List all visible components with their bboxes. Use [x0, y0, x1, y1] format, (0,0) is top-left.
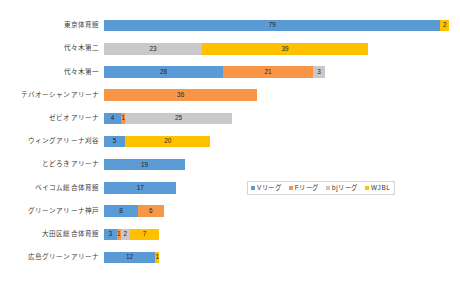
bar-value-label: 2 — [123, 231, 127, 237]
bar-value-label: 3 — [317, 69, 321, 75]
bar-track: 4125 — [104, 107, 460, 130]
category-label: ベイコム総合体育館 — [0, 185, 104, 192]
chart-row: 大田区総合体育館3127 — [0, 223, 460, 246]
legend-label: Vリーグ — [257, 185, 282, 191]
chart-row: ゼビオアリーナ4125 — [0, 107, 460, 130]
bar-value-label: 20 — [164, 138, 171, 144]
bar-track: 19 — [104, 153, 460, 176]
stacked-bar[interactable]: 36 — [104, 89, 257, 101]
legend-label: bjリーグ — [332, 185, 358, 191]
bar-track: 3127 — [104, 223, 460, 246]
bar-value-label: 21 — [264, 69, 271, 75]
bar-segment[interactable]: 19 — [104, 159, 185, 171]
bar-segment[interactable]: 8 — [104, 205, 138, 217]
chart-legend[interactable]: VリーグFリーグbjリーグWJBL — [247, 181, 395, 195]
category-label: 東京体育館 — [0, 22, 104, 29]
chart-row: 代々木第一28213 — [0, 60, 460, 83]
bar-segment[interactable]: 3 — [104, 229, 117, 241]
legend-swatch-icon — [365, 186, 369, 190]
bar-segment[interactable]: 2 — [440, 20, 449, 32]
bar-value-label: 39 — [281, 46, 288, 52]
chart-row: 東京体育館792 — [0, 14, 460, 37]
stacked-bar[interactable]: 792 — [104, 20, 449, 32]
bar-track: 2339 — [104, 37, 460, 60]
bar-track: 121 — [104, 246, 460, 269]
bar-segment[interactable]: 3 — [313, 66, 326, 78]
stacked-bar[interactable]: 4125 — [104, 113, 232, 125]
legend-item[interactable]: bjリーグ — [326, 185, 358, 191]
bar-segment[interactable]: 7 — [130, 229, 160, 241]
bar-value-label: 1 — [155, 254, 159, 260]
category-label: とどろきアリーナ — [0, 161, 104, 168]
bar-segment[interactable]: 79 — [104, 20, 440, 32]
category-label: グリーンアリーナ神戸 — [0, 208, 104, 215]
bar-segment[interactable]: 17 — [104, 182, 176, 194]
bar-track: 28213 — [104, 60, 460, 83]
bar-value-label: 4 — [111, 115, 115, 121]
bar-track: 792 — [104, 14, 460, 37]
category-label: 代々木第二 — [0, 45, 104, 52]
stacked-bar[interactable]: 17 — [104, 182, 176, 194]
category-label: 大田区総合体育館 — [0, 231, 104, 238]
category-label: 代々木第一 — [0, 69, 104, 76]
category-label: 広島グリーンアリーナ — [0, 254, 104, 261]
bar-segment[interactable]: 6 — [138, 205, 164, 217]
bar-value-label: 36 — [177, 92, 184, 98]
bar-value-label: 28 — [160, 69, 167, 75]
chart-row: ウィングアリーナ刈谷520 — [0, 130, 460, 153]
legend-label: WJBL — [371, 185, 390, 191]
stacked-bar[interactable]: 2339 — [104, 43, 368, 55]
bar-value-label: 23 — [149, 46, 156, 52]
bar-segment[interactable]: 5 — [104, 136, 125, 148]
stacked-bar[interactable]: 520 — [104, 136, 210, 148]
bar-value-label: 79 — [269, 22, 276, 28]
bar-track: 36 — [104, 84, 460, 107]
legend-label: Fリーグ — [295, 185, 319, 191]
stacked-bar[interactable]: 19 — [104, 159, 185, 171]
bar-track: 520 — [104, 130, 460, 153]
bar-segment[interactable]: 36 — [104, 89, 257, 101]
legend-swatch-icon — [289, 186, 293, 190]
bar-segment[interactable]: 20 — [125, 136, 210, 148]
bar-value-label: 3 — [109, 231, 113, 237]
chart-row: 代々木第二2339 — [0, 37, 460, 60]
stacked-bar[interactable]: 86 — [104, 205, 164, 217]
stacked-bar[interactable]: 3127 — [104, 229, 159, 241]
stacked-bar-chart: 東京体育館792代々木第二2339代々木第一28213テバオーシャンアリーナ36… — [0, 0, 460, 299]
bar-segment[interactable]: 21 — [223, 66, 312, 78]
bar-value-label: 7 — [143, 231, 147, 237]
bar-value-label: 5 — [113, 138, 117, 144]
legend-item[interactable]: Fリーグ — [289, 185, 319, 191]
category-label: ウィングアリーナ刈谷 — [0, 138, 104, 145]
legend-item[interactable]: Vリーグ — [251, 185, 282, 191]
bar-segment[interactable]: 28 — [104, 66, 223, 78]
legend-item[interactable]: WJBL — [365, 185, 390, 191]
legend-swatch-icon — [326, 186, 330, 190]
bar-segment[interactable]: 23 — [104, 43, 202, 55]
bar-segment[interactable]: 4 — [104, 113, 121, 125]
bar-value-label: 2 — [443, 22, 447, 28]
category-label: ゼビオアリーナ — [0, 115, 104, 122]
bar-track: 86 — [104, 200, 460, 223]
bar-segment[interactable]: 12 — [104, 252, 155, 264]
chart-row: グリーンアリーナ神戸86 — [0, 200, 460, 223]
stacked-bar[interactable]: 121 — [104, 252, 159, 264]
chart-row: とどろきアリーナ19 — [0, 153, 460, 176]
legend-swatch-icon — [251, 186, 255, 190]
chart-plot-area: 東京体育館792代々木第二2339代々木第一28213テバオーシャンアリーナ36… — [0, 14, 460, 269]
bar-value-label: 25 — [175, 115, 182, 121]
bar-segment[interactable]: 2 — [121, 229, 130, 241]
stacked-bar[interactable]: 28213 — [104, 66, 325, 78]
bar-value-label: 6 — [149, 208, 153, 214]
chart-row: 広島グリーンアリーナ121 — [0, 246, 460, 269]
category-label: テバオーシャンアリーナ — [0, 92, 104, 99]
bar-value-label: 12 — [126, 254, 133, 260]
bar-value-label: 19 — [141, 162, 148, 168]
bar-value-label: 17 — [137, 185, 144, 191]
bar-value-label: 8 — [119, 208, 123, 214]
bar-segment[interactable]: 1 — [155, 252, 159, 264]
bar-segment[interactable]: 25 — [125, 113, 231, 125]
chart-row: テバオーシャンアリーナ36 — [0, 84, 460, 107]
bar-segment[interactable]: 39 — [202, 43, 368, 55]
